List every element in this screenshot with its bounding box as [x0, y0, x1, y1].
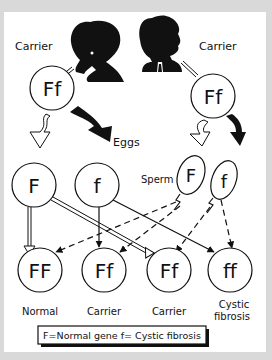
father-recessive-arrow-icon — [226, 114, 246, 146]
svg-text:Ff: Ff — [95, 259, 115, 283]
mother-label: Carrier — [15, 40, 53, 53]
inheritance-diagram: Carrier Carrier Ff Ff Eggs F — [0, 0, 272, 360]
offspring-label-normal: Normal — [22, 306, 58, 317]
sperm-label: Sperm — [141, 174, 174, 185]
offspring-ff: ff Cystic fibrosis — [208, 248, 252, 322]
svg-text:f: f — [93, 174, 101, 198]
offspring-Ff-1: Ff Carrier — [82, 248, 126, 317]
svg-text:Ff: Ff — [43, 77, 63, 101]
offspring-FF: FF Normal — [18, 248, 62, 317]
egg-f: f — [75, 163, 119, 207]
offspring-label-cystic: Cystic — [219, 299, 249, 310]
father-dominant-arrow-icon — [190, 120, 210, 146]
legend-text: F=Normal gene f= Cystic fibrosis — [43, 330, 201, 341]
mother-genotype: Ff — [30, 66, 74, 110]
sperm-F: F — [172, 152, 210, 210]
offspring-Ff-2: Ff Carrier — [147, 248, 191, 317]
offspring-label-carrier-2: Carrier — [152, 306, 187, 317]
diagram-stage: Carrier Carrier Ff Ff Eggs F — [0, 0, 272, 360]
offspring-label-carrier-1: Carrier — [87, 306, 122, 317]
father-connector — [181, 61, 198, 77]
mother-dominant-arrow-icon — [30, 114, 50, 148]
svg-text:F: F — [28, 174, 40, 198]
father-genotype: Ff — [191, 74, 235, 118]
sperm-f: f — [206, 157, 242, 213]
man-silhouette-icon — [139, 16, 182, 72]
svg-text:Ff: Ff — [204, 85, 224, 109]
woman-silhouette-icon — [71, 21, 124, 82]
mother-recessive-arrow-icon — [70, 106, 112, 142]
egg-f-lines — [99, 200, 214, 252]
egg-F: F — [12, 163, 56, 207]
legend: F=Normal gene f= Cystic fibrosis — [38, 326, 209, 347]
svg-text:F: F — [186, 165, 196, 186]
svg-text:f: f — [221, 171, 228, 192]
offspring-label-fibrosis: fibrosis — [214, 311, 250, 322]
svg-text:FF: FF — [28, 259, 51, 283]
sperm-lines — [56, 200, 232, 252]
eggs-label: Eggs — [113, 136, 140, 149]
svg-text:Ff: Ff — [160, 259, 180, 283]
svg-text:ff: ff — [223, 259, 238, 283]
father-label: Carrier — [199, 40, 237, 53]
